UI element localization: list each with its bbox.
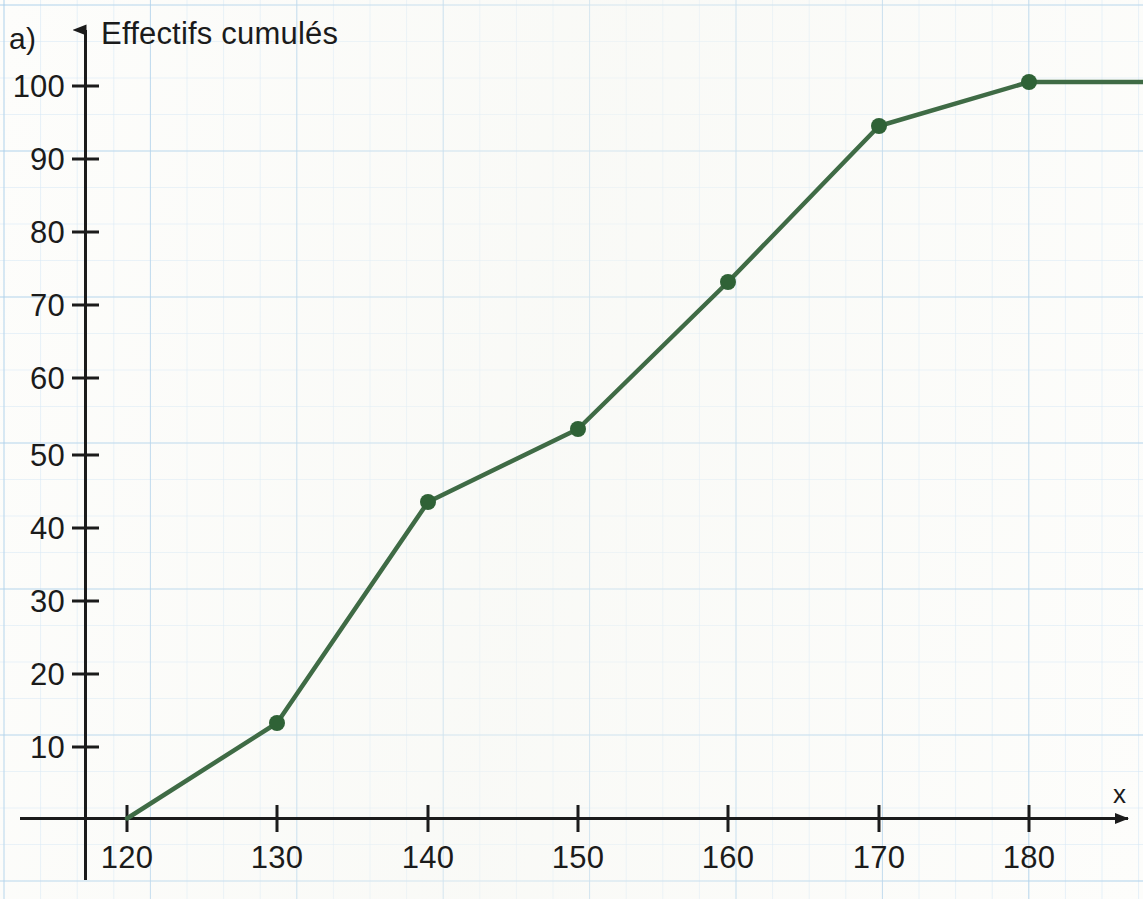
x-tick-label-150: 150	[528, 840, 628, 876]
plot-area	[0, 0, 1143, 899]
x-tick-label-130: 130	[227, 840, 327, 876]
chart-figure: a) Effectifs cumulés x 100 90 80 70 60 5…	[0, 0, 1143, 899]
x-axis-title: x	[1113, 779, 1126, 810]
data-point	[570, 421, 586, 437]
y-tick-label-70: 70	[0, 288, 65, 324]
data-point	[269, 715, 285, 731]
data-point	[720, 274, 736, 290]
x-tick-label-140: 140	[378, 840, 478, 876]
y-tick-label-30: 30	[0, 584, 65, 620]
cumulative-frequency-curve	[127, 82, 1143, 819]
y-tick-label-60: 60	[0, 361, 65, 397]
y-tick-label-100: 100	[0, 69, 65, 105]
x-tick-label-120: 120	[77, 840, 177, 876]
x-tick-label-160: 160	[678, 840, 778, 876]
panel-letter: a)	[9, 22, 36, 56]
data-point	[871, 118, 887, 134]
x-tick-label-170: 170	[829, 840, 929, 876]
data-point-markers	[269, 74, 1037, 731]
y-tick-label-40: 40	[0, 511, 65, 547]
y-tick-label-80: 80	[0, 215, 65, 251]
y-tick-label-20: 20	[0, 657, 65, 693]
y-tick-label-10: 10	[0, 730, 65, 766]
y-tick-label-50: 50	[0, 438, 65, 474]
y-axis-title: Effectifs cumulés	[101, 16, 338, 52]
data-point	[1021, 74, 1037, 90]
x-tick-label-180: 180	[979, 840, 1079, 876]
y-tick-label-90: 90	[0, 142, 65, 178]
data-point	[420, 494, 436, 510]
